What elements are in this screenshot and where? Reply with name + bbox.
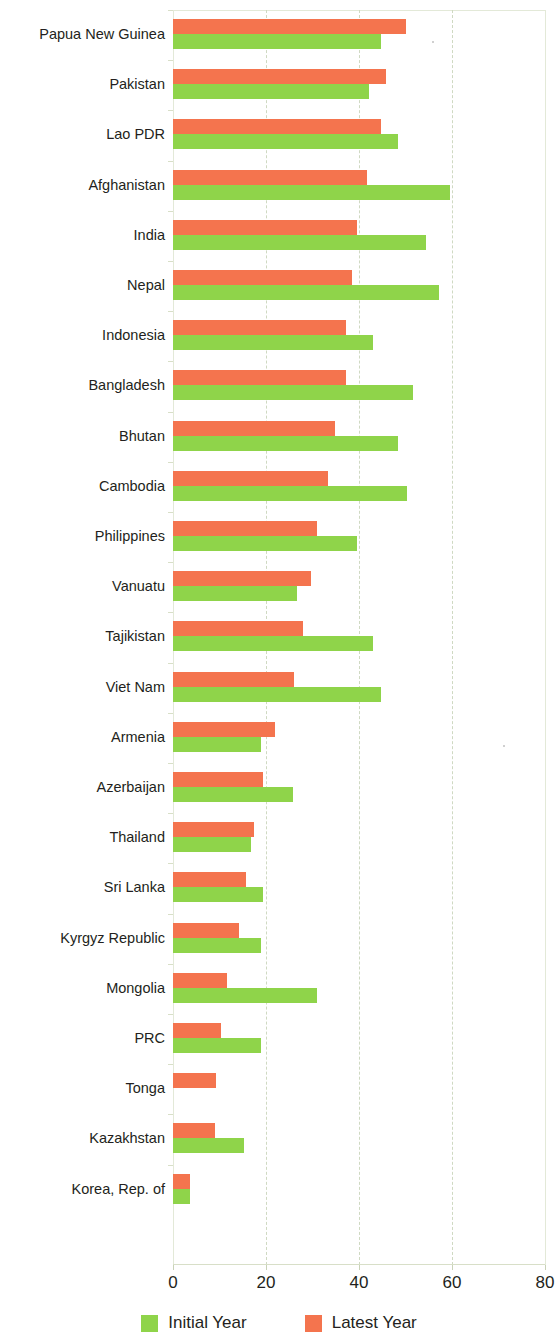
category-tick — [168, 562, 173, 563]
bar-row — [173, 914, 545, 964]
bar-initial-year — [173, 385, 413, 400]
x-tick — [359, 1265, 360, 1270]
bar-initial-year — [173, 84, 369, 99]
category-label: Mongolia — [0, 980, 165, 996]
bar-initial-year — [173, 636, 373, 651]
scan-speck — [503, 745, 505, 747]
bar-initial-year — [173, 1038, 261, 1053]
category-tick — [168, 914, 173, 915]
category-tick — [168, 211, 173, 212]
category-label: Bhutan — [0, 428, 165, 444]
category-label: Azerbaijan — [0, 779, 165, 795]
bar-row — [173, 161, 545, 211]
bar-initial-year — [173, 1138, 244, 1153]
x-tick — [266, 1265, 267, 1270]
bar-row — [173, 512, 545, 562]
bar-row — [173, 663, 545, 713]
bar-row — [173, 10, 545, 60]
category-label: Papua New Guinea — [0, 26, 165, 42]
bar-initial-year — [173, 837, 251, 852]
bar-initial-year — [173, 185, 450, 200]
category-tick — [168, 110, 173, 111]
category-tick — [168, 1114, 173, 1115]
bar-latest-year — [173, 1073, 216, 1088]
category-label: Philippines — [0, 528, 165, 544]
scan-speck — [432, 41, 434, 43]
bar-row — [173, 361, 545, 411]
bar-row — [173, 763, 545, 813]
category-label: Indonesia — [0, 327, 165, 343]
bar-row — [173, 1064, 545, 1114]
bar-row — [173, 713, 545, 763]
bar-latest-year — [173, 571, 311, 586]
bar-row — [173, 1014, 545, 1064]
category-label: Tajikistan — [0, 628, 165, 644]
bar-initial-year — [173, 988, 317, 1003]
x-tick-label: 60 — [443, 1273, 462, 1293]
category-label: India — [0, 227, 165, 243]
bar-latest-year — [173, 872, 246, 887]
legend-swatch-initial — [141, 1315, 158, 1332]
bar-row — [173, 863, 545, 913]
category-axis: Papua New GuineaPakistanLao PDRAfghanist… — [0, 10, 165, 1265]
bar-row — [173, 211, 545, 261]
category-label: Thailand — [0, 829, 165, 845]
bar-latest-year — [173, 421, 335, 436]
category-tick — [168, 663, 173, 664]
category-label: Vanuatu — [0, 578, 165, 594]
category-label: Pakistan — [0, 76, 165, 92]
category-tick — [168, 10, 173, 11]
gridline-80 — [545, 10, 547, 1265]
category-tick — [168, 311, 173, 312]
bar-latest-year — [173, 170, 367, 185]
bar-latest-year — [173, 370, 346, 385]
bar-latest-year — [173, 1023, 221, 1038]
bar-initial-year — [173, 34, 381, 49]
bar-initial-year — [173, 235, 426, 250]
x-tick-label: 40 — [350, 1273, 369, 1293]
category-tick — [168, 612, 173, 613]
legend-label: Initial Year — [168, 1313, 246, 1333]
bar-initial-year — [173, 1189, 190, 1204]
category-tick — [168, 713, 173, 714]
bar-latest-year — [173, 772, 263, 787]
category-label: Tonga — [0, 1080, 165, 1096]
bar-latest-year — [173, 1123, 215, 1138]
bar-row — [173, 813, 545, 863]
chart-legend: Initial YearLatest Year — [0, 1306, 558, 1340]
bar-row — [173, 311, 545, 361]
bar-row — [173, 110, 545, 160]
category-label: Kazakhstan — [0, 1130, 165, 1146]
bar-latest-year — [173, 19, 406, 34]
category-tick — [168, 361, 173, 362]
x-tick-label: 80 — [536, 1273, 555, 1293]
category-tick — [168, 763, 173, 764]
legend-item[interactable]: Initial Year — [141, 1313, 246, 1333]
bar-rows — [173, 10, 545, 1265]
bar-initial-year — [173, 938, 261, 953]
bar-chart: Papua New GuineaPakistanLao PDRAfghanist… — [0, 0, 558, 1340]
x-tick — [173, 1265, 174, 1270]
bar-initial-year — [173, 586, 297, 601]
bar-row — [173, 1165, 545, 1215]
bar-initial-year — [173, 737, 261, 752]
bar-initial-year — [173, 536, 357, 551]
bar-initial-year — [173, 486, 407, 501]
bar-initial-year — [173, 787, 293, 802]
category-tick — [168, 512, 173, 513]
legend-item[interactable]: Latest Year — [305, 1313, 417, 1333]
category-tick — [168, 1064, 173, 1065]
bar-initial-year — [173, 335, 373, 350]
x-tick — [545, 1265, 546, 1270]
x-tick — [452, 1265, 453, 1270]
category-tick — [168, 261, 173, 262]
bar-latest-year — [173, 1174, 190, 1189]
bar-latest-year — [173, 471, 328, 486]
bar-row — [173, 612, 545, 662]
category-tick — [168, 1165, 173, 1166]
category-label: PRC — [0, 1030, 165, 1046]
category-tick — [168, 462, 173, 463]
category-label: Afghanistan — [0, 177, 165, 193]
category-label: Korea, Rep. of — [0, 1181, 165, 1197]
bar-initial-year — [173, 134, 398, 149]
